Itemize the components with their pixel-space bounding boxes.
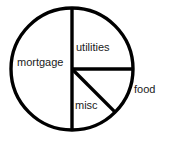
pie-slice-label-utilities: utilities [76,41,110,53]
pie-chart: mortgage utilities food misc [0,0,169,148]
pie-chart-graphic [0,0,169,148]
pie-slice-label-misc: misc [75,99,98,111]
pie-slice-label-food: food [134,83,155,95]
pie-slice-label-mortgage: mortgage [17,56,63,68]
